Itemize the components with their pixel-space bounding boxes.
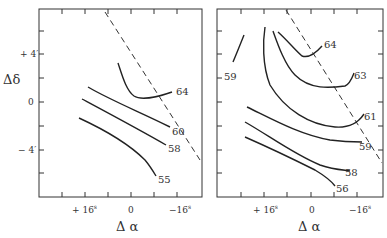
left-top-ticks bbox=[62, 9, 177, 14]
right-contour-59 bbox=[247, 107, 362, 142]
left-panel: 64 60 58 55 + 4′ 0 − 4′ Δδ + 16s 0 −16s … bbox=[3, 9, 202, 234]
right-panel: 64 63 61 59 59 58 56 + 16s 0 −16s Δ α bbox=[217, 9, 383, 234]
left-y-axis-label: Δδ bbox=[3, 72, 20, 87]
left-contour-64 bbox=[118, 63, 172, 98]
left-label-58: 58 bbox=[168, 143, 181, 154]
right-label-58: 58 bbox=[345, 167, 358, 178]
right-xtick-minus16: −16s bbox=[349, 203, 371, 215]
contour-figure: 64 60 58 55 + 4′ 0 − 4′ Δδ + 16s 0 −16s … bbox=[0, 0, 387, 238]
right-right-ticks bbox=[378, 31, 383, 173]
left-y-ticks bbox=[39, 31, 44, 173]
right-contour-58 bbox=[245, 122, 350, 171]
left-bottom-ticks bbox=[62, 192, 177, 197]
right-label-63: 63 bbox=[354, 70, 367, 81]
left-xtick-plus16: + 16s bbox=[72, 203, 97, 215]
right-contours bbox=[233, 27, 364, 186]
right-left-ticks bbox=[217, 31, 222, 173]
right-top-ticks bbox=[241, 9, 357, 14]
right-label-59: 59 bbox=[359, 141, 372, 152]
right-xtick-0: 0 bbox=[309, 205, 315, 215]
right-frame bbox=[217, 9, 383, 197]
right-label-59-fragment: 59 bbox=[224, 71, 237, 82]
left-label-55: 55 bbox=[158, 174, 171, 185]
right-contour-56 bbox=[245, 137, 335, 186]
left-ytick-minus4: − 4′ bbox=[18, 145, 36, 155]
left-xtick-minus16: −16s bbox=[169, 203, 191, 215]
left-contour-55 bbox=[79, 118, 156, 176]
left-ytick-0: 0 bbox=[28, 97, 34, 107]
left-label-60: 60 bbox=[172, 126, 185, 137]
left-contour-60 bbox=[88, 87, 170, 127]
right-label-61: 61 bbox=[364, 111, 377, 122]
right-contour-59-fragment bbox=[233, 35, 244, 62]
left-label-64: 64 bbox=[176, 86, 189, 97]
left-contours bbox=[79, 63, 172, 176]
right-label-64: 64 bbox=[324, 39, 337, 50]
right-contour-64 bbox=[278, 32, 322, 57]
right-xtick-plus16: + 16s bbox=[253, 203, 278, 215]
right-contour-61 bbox=[264, 27, 364, 127]
right-label-56: 56 bbox=[336, 183, 349, 194]
left-ytick-plus4: + 4′ bbox=[20, 49, 38, 59]
left-xtick-0: 0 bbox=[128, 205, 134, 215]
left-x-axis-label: Δ α bbox=[116, 219, 139, 234]
right-x-axis-label: Δ α bbox=[298, 219, 321, 234]
